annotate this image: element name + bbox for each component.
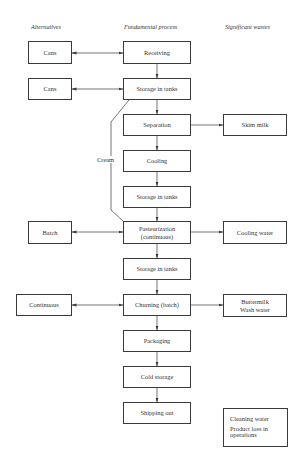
waste-label: Buttermilk [241,298,269,305]
process-cold-storage: Cold storage [123,366,191,388]
process-pasteurization: Pasteurization (continuous) [123,221,191,244]
header-alternatives: Alternatives [31,23,61,30]
process-shipping-out: Shipping out [123,402,191,424]
alternative-label: Cans [44,49,57,56]
process-label: Cold storage [141,373,173,380]
header-significant-wastes: Significant wastes [225,23,270,30]
alternative-label: Continuous [29,301,58,308]
waste-label: Cooling water [237,229,273,236]
process-label: Storage in tanks [136,85,177,92]
process-cooling: Cooling [123,150,191,172]
process-sublabel: (continuous) [141,233,173,240]
process-label: Churning (batch) [135,301,179,308]
waste-label: Skim milk [242,121,269,128]
alternative-label: Cans [44,85,57,92]
process-label: Shipping out [141,409,174,416]
waste-buttermilk-wash-water: Buttermilk Wash water [223,294,287,317]
alternative-batch: Batch [28,221,72,244]
cream-bypass-label: Cream [96,156,115,163]
process-separation: Separation [123,114,191,136]
alternative-continuous: Continuous [16,294,72,316]
process-label: Storage in tanks [136,193,177,200]
process-storage-3: Storage in tanks [123,258,191,280]
process-label: Separation [143,121,170,128]
waste-label-2: Wash water [240,306,270,313]
process-receiving: Receiving [123,41,191,64]
waste-cooling-water: Cooling water [223,221,287,244]
waste-label-3: operations [230,432,257,439]
process-label: Storage in tanks [136,265,177,272]
process-label: Packaging [144,337,171,344]
process-label: Pasteurization [139,225,175,232]
process-storage-1: Storage in tanks [123,78,191,100]
alternative-label: Batch [43,229,58,236]
alternative-cans-1: Cans [28,41,72,64]
process-storage-2: Storage in tanks [123,186,191,208]
waste-label: Cleaning water [230,416,269,423]
process-label: Receiving [144,49,170,56]
process-churning: Churning (batch) [123,294,191,316]
header-fundamental-process: Fundamental process [124,23,177,30]
process-packaging: Packaging [123,330,191,352]
process-label: Cooling [147,157,168,164]
alternative-cans-2: Cans [28,78,72,100]
waste-skim-milk: Skim milk [223,114,287,136]
waste-cleaning-product-loss: Cleaning water Product loss in operation… [223,408,288,447]
